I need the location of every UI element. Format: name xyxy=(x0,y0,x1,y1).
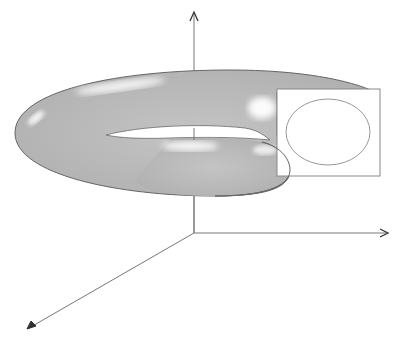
torus-diagram xyxy=(0,0,398,342)
figure-caption xyxy=(0,334,398,342)
y-axis-arrowhead-icon xyxy=(27,321,36,329)
cross-section xyxy=(277,89,380,176)
cross-section-ellipse xyxy=(286,99,370,165)
y-axis xyxy=(27,233,194,329)
x-axis xyxy=(194,229,388,237)
